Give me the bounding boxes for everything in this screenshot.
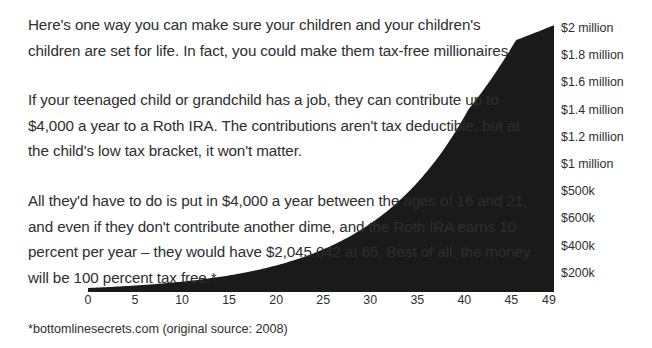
y-axis-tick: $400k bbox=[561, 240, 595, 252]
y-axis-tick: $1.8 million bbox=[561, 49, 624, 61]
paragraph-2: If your teenaged child or grandchild has… bbox=[28, 87, 533, 164]
y-axis-tick: $1.4 million bbox=[561, 104, 624, 116]
y-axis-tick: $1.6 million bbox=[561, 76, 624, 88]
x-axis-tick: 15 bbox=[222, 294, 236, 306]
x-axis-tick: 30 bbox=[363, 294, 377, 306]
article-body: Here's one way you can make sure your ch… bbox=[28, 12, 533, 290]
x-axis-tick: 20 bbox=[269, 294, 283, 306]
y-axis-tick: $500k bbox=[561, 185, 595, 197]
x-axis-tick: 45 bbox=[504, 294, 518, 306]
x-axis-tick: 40 bbox=[457, 294, 471, 306]
x-axis-tick: 5 bbox=[132, 294, 139, 306]
x-axis-tick: 10 bbox=[175, 294, 189, 306]
y-axis-tick: $200k bbox=[561, 267, 595, 279]
paragraph-3: All they'd have to do is put in $4,000 a… bbox=[28, 188, 533, 290]
y-axis-tick: $2 million bbox=[561, 22, 613, 34]
x-axis-tick: 25 bbox=[316, 294, 330, 306]
x-axis-tick: 0 bbox=[85, 294, 92, 306]
y-axis-tick: $1.2 million bbox=[561, 131, 624, 143]
y-axis-labels: $2 million$1.8 million$1.6 million$1.4 m… bbox=[561, 0, 652, 300]
x-axis-tick: 35 bbox=[410, 294, 424, 306]
y-axis-tick: $600k bbox=[561, 212, 595, 224]
source-footnote: *bottomlinesecrets.com (original source:… bbox=[28, 322, 288, 336]
x-axis-tick: 49 bbox=[542, 294, 556, 306]
infographic-page: Here's one way you can make sure your ch… bbox=[0, 0, 652, 348]
y-axis-tick: $1 million bbox=[561, 158, 613, 170]
paragraph-1: Here's one way you can make sure your ch… bbox=[28, 12, 533, 63]
x-axis-labels: 05101520253035404549 bbox=[0, 294, 652, 316]
